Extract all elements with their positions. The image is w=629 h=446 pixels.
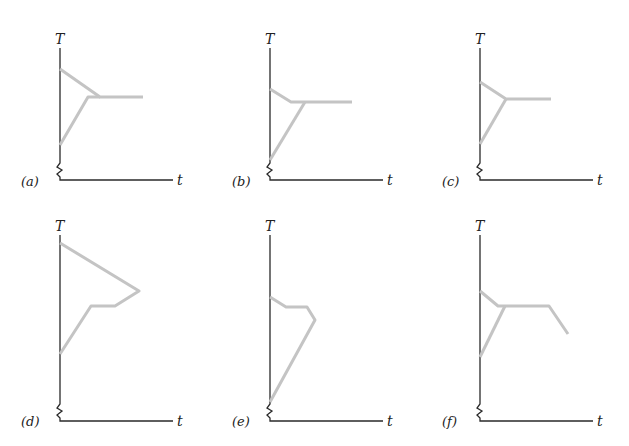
lower-curve	[480, 306, 505, 357]
x-axis-label: t	[387, 413, 393, 429]
panel-c: T t (c)	[442, 31, 603, 189]
panel-d: T t (d)	[21, 218, 183, 429]
y-axis-label: T	[475, 31, 486, 47]
axes	[267, 48, 383, 180]
x-axis-label: t	[597, 172, 603, 188]
y-axis-label: T	[265, 31, 276, 47]
y-axis-label: T	[55, 31, 66, 47]
cooling-curves-figure: T t (a) T t (b) T t (c) T t (d) T t (e)	[0, 0, 629, 446]
axes	[477, 48, 593, 180]
panel-label: (a)	[21, 174, 39, 189]
upper-curve	[270, 89, 352, 102]
x-axis-label: t	[177, 172, 183, 188]
axes	[57, 235, 173, 421]
panel-e: T t (e)	[232, 218, 393, 429]
panel-label: (c)	[442, 174, 459, 189]
lower-curve	[480, 99, 506, 144]
panel-label: (b)	[232, 174, 250, 189]
x-axis-label: t	[177, 413, 183, 429]
panel-label: (e)	[232, 414, 250, 429]
upper-curve	[60, 69, 143, 97]
upper-curve	[480, 82, 551, 99]
y-axis-label: T	[265, 218, 276, 234]
panel-label: (d)	[21, 414, 39, 429]
panel-f: T t (f)	[442, 218, 603, 429]
curve	[270, 297, 315, 402]
curve	[60, 243, 139, 354]
lower-curve	[60, 97, 100, 145]
lower-curve	[270, 102, 305, 160]
axes	[57, 48, 173, 180]
panel-label: (f)	[442, 414, 457, 429]
panel-b: T t (b)	[232, 31, 393, 189]
panel-a: T t (a)	[21, 31, 183, 189]
y-axis-label: T	[475, 218, 486, 234]
axes	[267, 235, 383, 421]
x-axis-label: t	[387, 172, 393, 188]
x-axis-label: t	[597, 413, 603, 429]
y-axis-label: T	[55, 218, 66, 234]
